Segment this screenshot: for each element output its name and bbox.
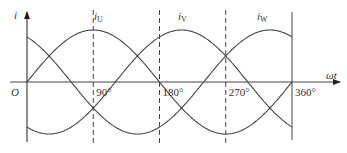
label-iU: iU — [94, 10, 103, 24]
origin-label: O — [11, 86, 19, 98]
three-phase-current-chart: i O ωt 90°180°270°360° iUiViW — [0, 0, 347, 153]
tick-270: 270° — [229, 86, 250, 98]
y-axis-label: i — [14, 9, 17, 21]
x-axis-label: ωt — [326, 69, 338, 81]
x-tick-labels: 90°180°270°360° — [96, 86, 316, 98]
tick-90: 90° — [96, 86, 111, 98]
tick-180: 180° — [163, 86, 184, 98]
series-labels: iUiViW — [94, 10, 268, 24]
label-iW: iW — [257, 10, 268, 24]
tick-360: 360° — [295, 86, 316, 98]
label-iV: iV — [178, 10, 187, 24]
